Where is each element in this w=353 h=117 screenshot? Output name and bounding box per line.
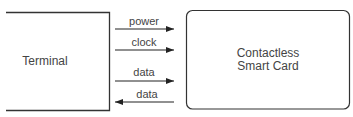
signal-label: data [133,66,155,78]
signal-label: data [136,88,158,100]
signal-label: clock [131,36,157,48]
signal-data-in: data [115,88,174,102]
signal-data-out: data [115,66,174,81]
terminal-box: Terminal [6,13,110,111]
signal-clock: clock [115,36,174,50]
signal-power: power [115,15,174,29]
diagram-canvas: Terminal Contactless Smart Card power cl… [0,0,353,117]
smart-card-box: Contactless Smart Card [187,11,350,110]
card-label-line1: Contactless [237,46,300,60]
terminal-label: Terminal [22,54,67,68]
signal-label: power [129,15,159,27]
card-label-line2: Smart Card [237,59,298,73]
